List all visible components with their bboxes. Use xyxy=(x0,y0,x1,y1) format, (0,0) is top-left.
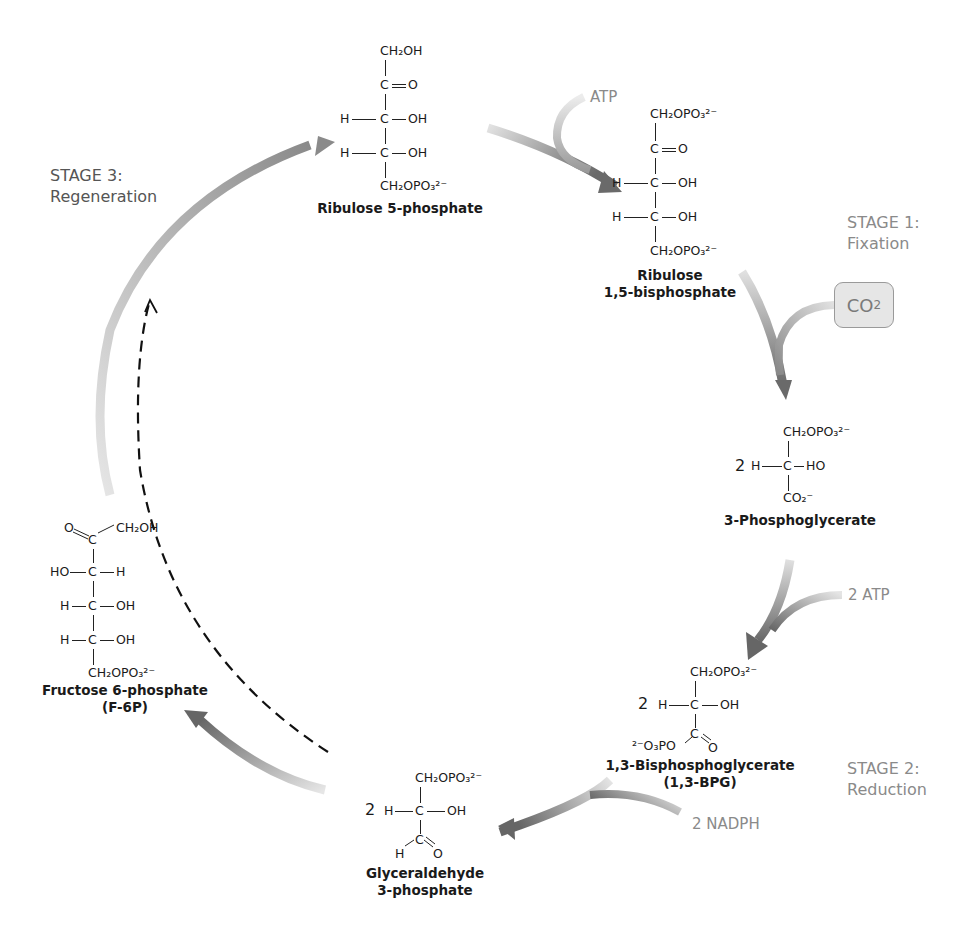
f6p-h3: H xyxy=(116,564,125,579)
reagent-co2-box: CO2 xyxy=(834,282,894,328)
bpg-name-line1: 1,3-Bisphosphoglycerate xyxy=(600,757,800,774)
f6p-c4: C xyxy=(88,598,97,613)
stage-3-label: STAGE 3: Regeneration xyxy=(50,165,157,207)
bpg-oh: OH xyxy=(720,697,739,712)
ru5p-h4: H xyxy=(340,145,349,160)
g3p-top: CH₂OPO₃²⁻ xyxy=(415,770,482,785)
f6p-h4: H xyxy=(60,598,69,613)
rubp-name-line1: Ribulose xyxy=(595,267,745,284)
f6p-name-line2: (F-6P) xyxy=(40,699,210,716)
pga3-h: H xyxy=(751,458,760,473)
ru5p-top: CH₂OH xyxy=(380,43,422,58)
g3p-o: O xyxy=(433,846,443,861)
f6p-oh5: OH xyxy=(116,632,135,647)
g3p-coef: 2 xyxy=(365,800,375,819)
rubp-top: CH₂OPO₃²⁻ xyxy=(650,106,717,121)
ru5p-c4: C xyxy=(380,145,389,160)
co2-label: CO xyxy=(847,295,874,316)
cycle-arrows xyxy=(0,0,974,926)
ru5p-o: O xyxy=(408,77,418,92)
f6p-name-line1: Fructose 6-phosphate xyxy=(40,682,210,699)
bpg-coef: 2 xyxy=(638,694,648,713)
bpg-name-line2: (1,3-BPG) xyxy=(600,774,800,791)
f6p-bottom: CH₂OPO₃²⁻ xyxy=(88,665,155,680)
g3p-oh: OH xyxy=(447,803,466,818)
co2-subscript: 2 xyxy=(874,298,882,312)
bpg-o: O xyxy=(708,740,718,755)
pga3-coef: 2 xyxy=(735,456,745,475)
ru5p-oh3: OH xyxy=(408,111,427,126)
stage-1-title: STAGE 1: xyxy=(847,212,920,233)
stage-1-subtitle: Fixation xyxy=(847,233,920,254)
pga3-c: C xyxy=(783,458,792,473)
stage-3-title: STAGE 3: xyxy=(50,165,157,186)
g3p-c1: C xyxy=(415,832,424,847)
stage-2-label: STAGE 2: Reduction xyxy=(847,758,927,800)
rubp-c3: C xyxy=(650,175,659,190)
bpg-top: CH₂OPO₃²⁻ xyxy=(690,664,757,679)
rubp-name-line2: 1,5-bisphosphate xyxy=(595,284,745,301)
stage-3-subtitle: Regeneration xyxy=(50,186,157,207)
rubp-oh3: OH xyxy=(678,175,697,190)
f6p-ho3: HO xyxy=(50,564,69,579)
pga3-ho: HO xyxy=(806,458,825,473)
ru5p-h3: H xyxy=(340,111,349,126)
arrow-ru5p-to-rubp xyxy=(488,97,622,193)
rubp-h3: H xyxy=(612,175,621,190)
rubp-bottom: CH₂OPO₃²⁻ xyxy=(650,243,717,258)
rubp-name: Ribulose 1,5-bisphosphate xyxy=(595,267,745,301)
g3p-name-line1: Glyceraldehyde xyxy=(350,865,500,882)
bpg-h: H xyxy=(658,697,667,712)
arrow-rubp-to-3pg xyxy=(742,272,834,400)
stage-2-subtitle: Reduction xyxy=(847,779,927,800)
arrow-3pg-to-bpg xyxy=(746,560,842,660)
g3p-h: H xyxy=(384,803,393,818)
reagent-2-atp: 2 ATP xyxy=(848,586,890,604)
ru5p-c2: C xyxy=(380,77,389,92)
arrow-g3p-to-f6p xyxy=(184,710,325,790)
rubp-h4: H xyxy=(612,209,621,224)
pga3-bottom: CO₂⁻ xyxy=(783,490,813,505)
bpg-name: 1,3-Bisphosphoglycerate (1,3-BPG) xyxy=(600,757,800,791)
reagent-2-nadph: 2 NADPH xyxy=(692,815,760,833)
bpg-c1: C xyxy=(690,726,699,741)
rubp-c2: C xyxy=(650,141,659,156)
ru5p-bottom: CH₂OPO₃²⁻ xyxy=(380,178,447,193)
f6p-oh4: OH xyxy=(116,598,135,613)
f6p-name: Fructose 6-phosphate (F-6P) xyxy=(40,682,210,716)
rubp-oh4: OH xyxy=(678,209,697,224)
bpg-c: C xyxy=(690,697,699,712)
bpg-o3po: ²⁻O₃PO xyxy=(632,738,676,753)
ru5p-oh4: OH xyxy=(408,145,427,160)
f6p-c2: C xyxy=(88,532,97,547)
g3p-name-line2: 3-phosphate xyxy=(350,882,500,899)
g3p-ald-h: H xyxy=(395,846,404,861)
rubp-o: O xyxy=(678,141,688,156)
g3p-name: Glyceraldehyde 3-phosphate xyxy=(350,865,500,899)
ru5p-name: Ribulose 5-phosphate xyxy=(315,200,485,217)
f6p-c5: C xyxy=(88,632,97,647)
reagent-atp: ATP xyxy=(590,88,617,106)
stage-1-label: STAGE 1: Fixation xyxy=(847,212,920,254)
f6p-o: O xyxy=(64,520,74,535)
f6p-c3: C xyxy=(88,564,97,579)
ru5p-c3: C xyxy=(380,111,389,126)
g3p-c: C xyxy=(415,803,424,818)
f6p-h5: H xyxy=(60,632,69,647)
pga3-name: 3-Phosphoglycerate xyxy=(720,512,880,529)
rubp-c4: C xyxy=(650,209,659,224)
pga3-top: CH₂OPO₃²⁻ xyxy=(783,424,850,439)
stage-2-title: STAGE 2: xyxy=(847,758,927,779)
f6p-ch2oh: CH₂OH xyxy=(116,520,158,535)
